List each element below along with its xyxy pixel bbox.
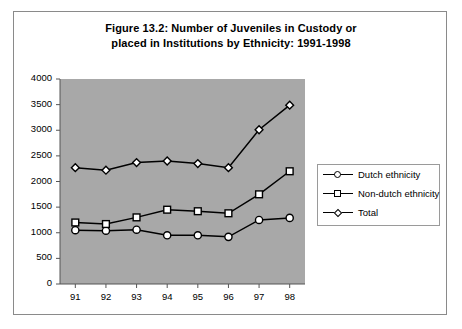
chart-legend: Dutch ethnicity Non-dutch ethnicity Tota… [317, 164, 440, 226]
data-point-marker-circle [102, 227, 109, 234]
legend-marker-diamond-icon [323, 207, 353, 219]
legend-item-total: Total [318, 203, 439, 222]
y-axis-tick-label: 3500 [14, 98, 52, 109]
legend-marker-square-icon [323, 188, 353, 200]
data-point-marker-square [256, 191, 263, 198]
y-axis-tick-label: 2500 [14, 149, 52, 160]
legend-marker-circle-icon [323, 169, 353, 181]
data-point-marker-square [133, 214, 140, 221]
legend-item-non-dutch-ethnicity: Non-dutch ethnicity [318, 184, 439, 203]
data-point-marker-square [72, 219, 79, 226]
y-axis-tick-label: 500 [14, 251, 52, 262]
y-axis-tick-label: 4000 [14, 72, 52, 83]
data-point-marker-square [103, 221, 110, 228]
y-axis-tick-label: 3000 [14, 123, 52, 134]
chart-plot-area: Dutch ethnicity Non-dutch ethnicity Tota… [14, 12, 448, 316]
y-axis-tick-label: 1000 [14, 226, 52, 237]
data-point-marker-circle [225, 233, 232, 240]
data-point-marker-square [286, 168, 293, 175]
y-axis-tick-label: 2000 [14, 175, 52, 186]
y-axis-tick-label: 0 [14, 277, 52, 288]
data-point-marker-circle [164, 232, 171, 239]
x-axis-tick-label: 98 [270, 291, 310, 302]
legend-item-dutch-ethnicity: Dutch ethnicity [318, 165, 439, 184]
data-point-marker-circle [133, 226, 140, 233]
figure-frame: Figure 13.2: Number of Juveniles in Cust… [13, 11, 447, 315]
legend-label-non-dutch-ethnicity: Non-dutch ethnicity [358, 188, 439, 199]
legend-label-total: Total [358, 207, 378, 218]
data-point-marker-circle [255, 216, 262, 223]
data-point-marker-circle [194, 232, 201, 239]
data-point-marker-square [225, 210, 232, 217]
data-point-marker-circle [286, 214, 293, 221]
legend-label-dutch-ethnicity: Dutch ethnicity [358, 169, 420, 180]
data-point-marker-circle [72, 227, 79, 234]
data-point-marker-square [164, 206, 171, 213]
y-axis-tick-label: 1500 [14, 200, 52, 211]
plot-background [60, 79, 305, 284]
data-point-marker-square [194, 208, 201, 215]
